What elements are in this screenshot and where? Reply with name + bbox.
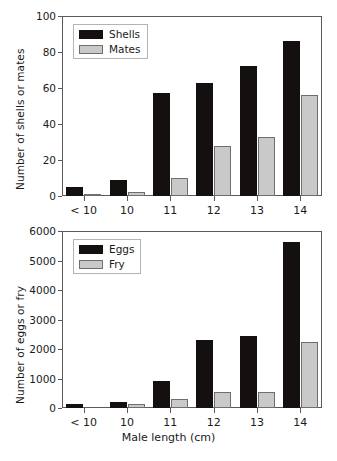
x-tick-mark xyxy=(257,196,258,201)
x-tick-mark xyxy=(257,408,258,413)
legend-item-mates: Mates xyxy=(79,43,141,55)
bar-shells-13 xyxy=(240,66,257,196)
legend-label-mates: Mates xyxy=(109,44,141,54)
legend-item-shells: Shells xyxy=(79,28,141,40)
bar-eggs-13 xyxy=(240,336,257,408)
bar-fry-12 xyxy=(214,392,231,408)
legend-item-fry: Fry xyxy=(79,258,134,270)
x-tick-label: 10 xyxy=(120,204,134,217)
bar-eggs-10 xyxy=(66,404,83,408)
y-tick-label: 5000 xyxy=(0,256,56,266)
x-tick-mark xyxy=(84,408,85,413)
bar-eggs-10 xyxy=(110,402,127,408)
y-tick-label: 2000 xyxy=(0,344,56,354)
x-tick-mark xyxy=(84,196,85,201)
x-tick-mark xyxy=(170,196,171,201)
legend-swatch-shells xyxy=(79,30,103,39)
x-tick-label: 12 xyxy=(207,204,221,217)
legend-label-shells: Shells xyxy=(109,29,140,39)
bar-mates-12 xyxy=(214,146,231,196)
y-tick-label: 6000 xyxy=(0,226,56,236)
chart-panel-eggs-fry: Number of eggs or fry 010002000300040005… xyxy=(0,228,337,461)
bar-fry-14 xyxy=(301,342,318,408)
legend-swatch-eggs xyxy=(79,245,103,254)
bar-eggs-11 xyxy=(153,381,170,408)
legend-swatch-mates xyxy=(79,45,103,54)
x-tick-label: 11 xyxy=(163,416,177,429)
legend-label-fry: Fry xyxy=(109,259,125,269)
y-tick-mark xyxy=(58,408,62,409)
bar-eggs-14 xyxy=(283,242,300,408)
bar-mates-11 xyxy=(171,178,188,196)
y-tick-label: 60 xyxy=(0,83,56,93)
x-tick-mark xyxy=(214,196,215,201)
x-tick-label: 14 xyxy=(293,416,307,429)
x-tick-label: 12 xyxy=(207,416,221,429)
bar-mates-10 xyxy=(128,192,145,196)
legend-item-eggs: Eggs xyxy=(79,243,134,255)
chart-panel-shells-mates: Number of shells or mates 020406080100 <… xyxy=(0,0,337,228)
y-tick-label: 0 xyxy=(0,403,56,413)
x-tick-label: 14 xyxy=(293,204,307,217)
y-tick-label: 4000 xyxy=(0,285,56,295)
x-tick-mark xyxy=(127,408,128,413)
bar-fry-11 xyxy=(171,399,188,408)
y-tick-label: 40 xyxy=(0,119,56,129)
y-tick-label: 20 xyxy=(0,155,56,165)
bar-shells-14 xyxy=(283,41,300,196)
bar-mates-13 xyxy=(258,137,275,196)
y-tick-label: 1000 xyxy=(0,374,56,384)
x-tick-mark xyxy=(300,196,301,201)
x-tick-label: 11 xyxy=(163,204,177,217)
x-tick-label: 13 xyxy=(250,204,264,217)
x-tick-mark xyxy=(300,408,301,413)
legend-swatch-fry xyxy=(79,260,103,269)
x-tick-mark xyxy=(127,196,128,201)
bar-shells-10 xyxy=(110,180,127,196)
y-tick-label: 0 xyxy=(0,191,56,201)
x-tick-mark xyxy=(214,408,215,413)
y-tick-label: 80 xyxy=(0,47,56,57)
y-tick-label: 3000 xyxy=(0,315,56,325)
legend-label-eggs: Eggs xyxy=(109,244,134,254)
x-tick-label: 13 xyxy=(250,416,264,429)
bar-mates-10 xyxy=(84,194,101,196)
x-tick-label: < 10 xyxy=(70,204,97,217)
bar-shells-12 xyxy=(196,83,213,196)
bar-mates-14 xyxy=(301,95,318,196)
bar-eggs-12 xyxy=(196,340,213,408)
x-tick-label: < 10 xyxy=(70,416,97,429)
x-tick-mark xyxy=(170,408,171,413)
y-tick-mark xyxy=(58,196,62,197)
x-tick-label: 10 xyxy=(120,416,134,429)
legend-bottom: EggsFry xyxy=(73,239,141,274)
bar-shells-11 xyxy=(153,93,170,196)
x-axis-label: Male length (cm) xyxy=(0,431,337,444)
bar-fry-13 xyxy=(258,392,275,408)
legend-top: ShellsMates xyxy=(73,24,148,59)
bar-fry-10 xyxy=(128,404,145,408)
bar-shells-10 xyxy=(66,187,83,196)
y-tick-label: 100 xyxy=(0,11,56,21)
